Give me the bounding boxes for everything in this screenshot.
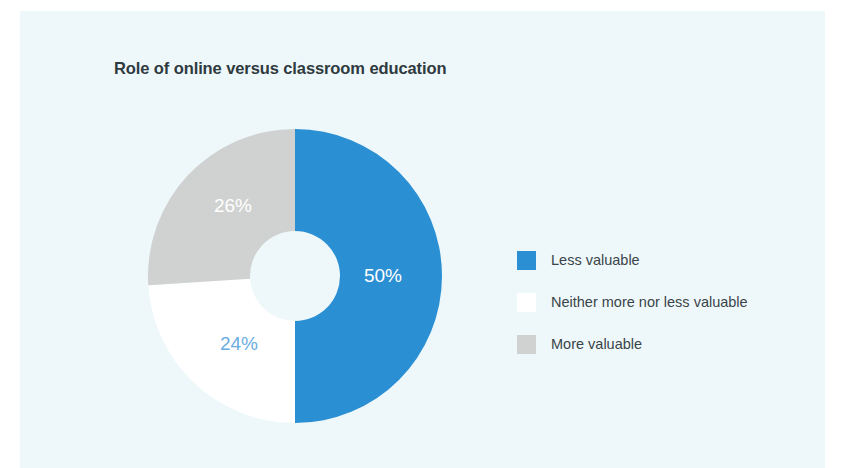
slice-value-label: 26% [214, 195, 252, 216]
slice-value-label: 50% [364, 265, 402, 286]
legend-item-less-valuable[interactable]: Less valuable [517, 249, 817, 271]
legend-item-more-valuable[interactable]: More valuable [517, 333, 817, 355]
legend-item-neither-more-nor-less-valuable[interactable]: Neither more nor less valuable [517, 291, 817, 313]
legend-item-label: Less valuable [551, 252, 640, 268]
legend-swatch-icon [517, 251, 536, 270]
legend-swatch-icon [517, 293, 536, 312]
chart-figure: Role of online versus classroom educatio… [20, 11, 825, 468]
legend-item-label: More valuable [551, 336, 642, 352]
slice-value-label: 24% [220, 333, 258, 354]
legend-swatch-icon [517, 335, 536, 354]
chart-legend: Less valuable Neither more nor less valu… [517, 249, 817, 355]
donut-svg: 50% 24% 26% [128, 107, 462, 441]
legend-item-label: Neither more nor less valuable [551, 294, 748, 310]
chart-title: Role of online versus classroom educatio… [114, 59, 446, 78]
donut-chart: 50% 24% 26% [128, 107, 462, 441]
